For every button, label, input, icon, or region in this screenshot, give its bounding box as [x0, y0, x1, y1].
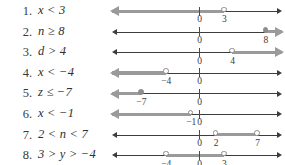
left-arrowhead-icon	[110, 68, 119, 78]
problem-row: 2.n ≥ 808	[0, 24, 285, 45]
right-arrowhead-icon	[277, 70, 282, 76]
inequality-expression: d > 4	[38, 44, 66, 59]
solution-shading	[112, 113, 191, 116]
open-endpoint-circle	[163, 151, 169, 157]
left-arrowhead-icon	[112, 132, 117, 138]
inequality-expression: x < 3	[38, 3, 65, 18]
left-arrowhead-icon	[110, 6, 119, 16]
problem-row: 1.x < 303	[0, 3, 285, 24]
number-line: 027	[112, 127, 282, 148]
number-line: 08	[112, 24, 282, 45]
number-line: 0−1	[112, 106, 282, 127]
solution-shading	[216, 133, 258, 136]
problem-number: 6.	[14, 107, 32, 122]
problem-number: 2.	[14, 25, 32, 40]
left-arrowhead-icon	[112, 152, 117, 158]
problem-number: 1.	[14, 4, 32, 19]
problem-row: 5.z ≤ −70−7	[0, 85, 285, 106]
problem-row: 4.x < −40−4	[0, 65, 285, 86]
worksheet-page: 1.x < 3032.n ≥ 8083.d > 4044.x < −40−45.…	[0, 0, 285, 165]
number-line: 0−43	[112, 147, 282, 165]
inequality-expression: 2 < n < 7	[38, 127, 88, 142]
right-arrowhead-icon	[275, 47, 284, 57]
problem-row: 7.2 < n < 7027	[0, 127, 285, 148]
boundary-label: 3	[222, 159, 227, 165]
inequality-expression: n ≥ 8	[38, 24, 65, 39]
right-arrowhead-icon	[277, 152, 282, 158]
closed-endpoint-dot	[263, 27, 269, 33]
right-arrowhead-icon	[275, 27, 284, 37]
number-line: 03	[112, 3, 282, 24]
right-arrowhead-icon	[277, 111, 282, 117]
left-arrowhead-icon	[110, 89, 119, 99]
open-endpoint-circle	[221, 7, 227, 13]
number-line-axis	[114, 32, 280, 33]
number-line: 04	[112, 44, 282, 65]
inequality-expression: 3 > y > −4	[38, 147, 96, 162]
left-arrowhead-icon	[112, 29, 117, 35]
problem-number: 8.	[14, 148, 32, 163]
right-arrowhead-icon	[277, 8, 282, 14]
solution-shading	[112, 71, 166, 74]
number-line: 0−7	[112, 85, 282, 106]
open-endpoint-circle	[221, 151, 227, 157]
solution-shading	[112, 10, 224, 13]
problem-row: 3.d > 404	[0, 44, 285, 65]
inequality-expression: x < −4	[38, 65, 74, 80]
right-arrowhead-icon	[277, 132, 282, 138]
problem-number: 3.	[14, 45, 32, 60]
left-arrowhead-icon	[110, 109, 119, 119]
number-line: 0−4	[112, 65, 282, 86]
problem-row: 6.x < −10−1	[0, 106, 285, 127]
right-arrowhead-icon	[277, 91, 282, 97]
open-endpoint-circle	[163, 68, 169, 74]
open-endpoint-circle	[254, 130, 260, 136]
boundary-label: −4	[161, 159, 171, 165]
problem-number: 5.	[14, 86, 32, 101]
closed-endpoint-dot	[138, 89, 144, 95]
solution-shading	[166, 154, 224, 157]
left-arrowhead-icon	[112, 49, 117, 55]
problem-number: 7.	[14, 128, 32, 143]
zero-label: 0	[197, 159, 202, 165]
problem-row: 8.3 > y > −40−43	[0, 147, 285, 165]
problem-number: 4.	[14, 66, 32, 81]
inequality-expression: z ≤ −7	[38, 85, 72, 100]
inequality-expression: x < −1	[38, 106, 74, 121]
